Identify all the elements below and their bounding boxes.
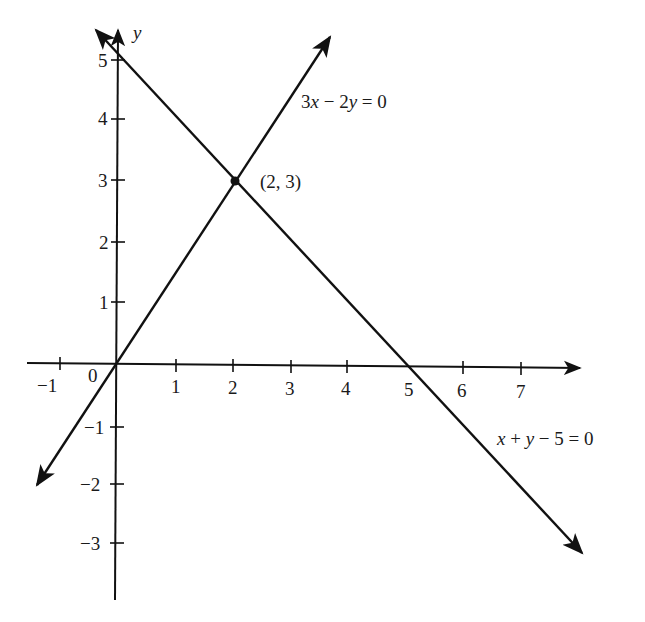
y-tick-label: 2 xyxy=(99,232,109,253)
x-tick-label: 3 xyxy=(285,378,295,399)
intersection-point xyxy=(231,177,240,186)
x-tick-label: 6 xyxy=(457,380,467,401)
x-tick-label: 2 xyxy=(228,377,238,398)
line-3x-minus-2y-label: 3x − 2y = 0 xyxy=(301,91,387,112)
line-x-plus-y-minus-5-label: x + y − 5 = 0 xyxy=(496,428,594,449)
x-tick-label: 1 xyxy=(171,376,181,397)
intersection-label: (2, 3) xyxy=(260,171,301,193)
y-axis xyxy=(115,30,118,600)
y-tick-label: 4 xyxy=(98,108,108,129)
x-tick-label: 4 xyxy=(341,378,351,399)
y-tick-label: −1 xyxy=(84,417,104,438)
origin-label: 0 xyxy=(88,365,98,386)
y-tick-label: 1 xyxy=(99,292,109,313)
x-tick-label: 5 xyxy=(404,379,414,400)
y-tick-label: −2 xyxy=(80,474,100,495)
graph-canvas: −1 0 1 2 3 4 5 6 7 5 4 3 2 1 −1 −2 −3 y … xyxy=(0,0,645,622)
line-3x-minus-2y xyxy=(37,37,330,485)
x-tick-label: −1 xyxy=(37,375,57,396)
y-axis-label: y xyxy=(131,22,142,43)
x-axis xyxy=(27,363,580,368)
y-tick-label: 5 xyxy=(98,50,108,71)
y-tick-label: 3 xyxy=(98,170,108,191)
x-tick-label: 7 xyxy=(516,381,526,402)
y-tick-label: −3 xyxy=(80,533,100,554)
